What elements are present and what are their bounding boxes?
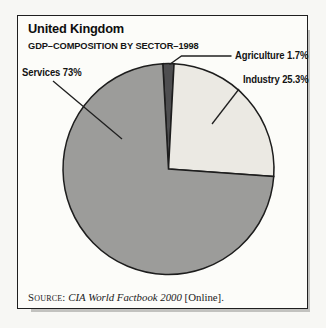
leader-line-agriculture <box>170 56 232 65</box>
label-industry: Industry 25.3% <box>243 74 309 85</box>
source-suffix: [Online]. <box>185 291 224 303</box>
label-services: Services 73% <box>22 67 81 78</box>
source-note: Source: CIA World Factbook 2000 [Online]… <box>28 291 224 303</box>
label-agriculture: Agriculture 1.7% <box>235 50 308 61</box>
source-work-title: CIA World Factbook 2000 <box>68 291 182 303</box>
figure-title: United Kingdom <box>28 21 199 36</box>
figure-subtitle: GDP–COMPOSITION BY SECTOR–1998 <box>28 40 199 51</box>
source-prefix: Source: <box>28 291 66 303</box>
pie-slices <box>63 63 274 274</box>
figure-header: United Kingdom GDP–COMPOSITION BY SECTOR… <box>28 21 210 51</box>
